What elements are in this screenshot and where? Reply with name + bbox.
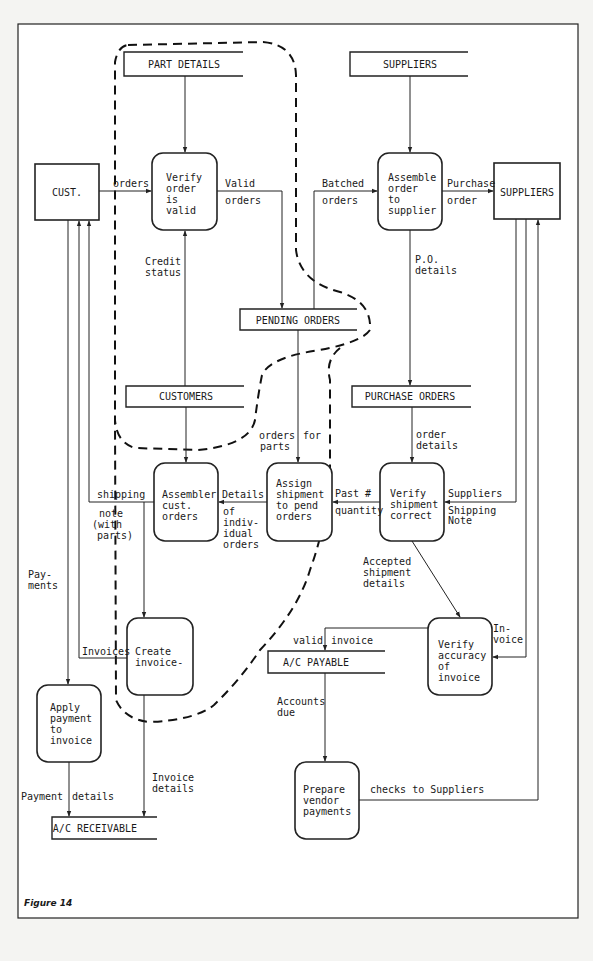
svg-text:Create: Create bbox=[135, 646, 171, 657]
svg-text:correct: correct bbox=[390, 510, 432, 521]
svg-text:SUPPLIERS: SUPPLIERS bbox=[383, 59, 437, 70]
svg-text:status: status bbox=[145, 267, 181, 278]
svg-text:invoice: invoice bbox=[50, 735, 92, 746]
figure-caption: Figure 14 bbox=[24, 898, 72, 908]
svg-text:of: of bbox=[223, 506, 235, 517]
svg-text:of: of bbox=[438, 661, 450, 672]
data-flow-diagram: CUST. SUPPLIERS PART DETAILS SUPPLIERS P… bbox=[0, 0, 593, 961]
svg-text:Valid: Valid bbox=[225, 178, 255, 189]
svg-text:PART DETAILS: PART DETAILS bbox=[148, 59, 220, 70]
svg-text:Accounts: Accounts bbox=[277, 696, 325, 707]
svg-text:Suppliers: Suppliers bbox=[448, 488, 502, 499]
svg-text:to: to bbox=[388, 194, 400, 205]
svg-text:Invoices: Invoices bbox=[82, 646, 130, 657]
svg-text:details: details bbox=[363, 578, 405, 589]
svg-text:orders: orders bbox=[259, 430, 295, 441]
svg-text:parts): parts) bbox=[97, 530, 133, 541]
svg-text:Past #: Past # bbox=[335, 488, 371, 499]
svg-text:Assemble: Assemble bbox=[388, 172, 436, 183]
svg-text:order: order bbox=[447, 195, 477, 206]
process-assign-shipment[interactable]: Assign shipment to pend orders bbox=[267, 463, 332, 541]
svg-text:payment: payment bbox=[50, 713, 92, 724]
svg-text:Details: Details bbox=[222, 489, 264, 500]
svg-text:orders: orders bbox=[225, 195, 261, 206]
svg-text:Assembler: Assembler bbox=[162, 489, 216, 500]
svg-text:orders: orders bbox=[162, 511, 198, 522]
process-verify-order[interactable]: Verify order is valid bbox=[152, 153, 217, 230]
svg-text:indiv-: indiv- bbox=[223, 517, 259, 528]
svg-text:Apply: Apply bbox=[50, 702, 80, 713]
svg-text:order: order bbox=[416, 429, 446, 440]
svg-text:In-: In- bbox=[493, 623, 511, 634]
svg-text:invoice-: invoice- bbox=[135, 657, 183, 668]
svg-text:order: order bbox=[388, 183, 418, 194]
svg-text:orders: orders bbox=[322, 195, 358, 206]
svg-text:shipping: shipping bbox=[97, 489, 145, 500]
svg-text:for: for bbox=[303, 430, 321, 441]
svg-text:Batched: Batched bbox=[322, 178, 364, 189]
svg-text:invoice: invoice bbox=[331, 635, 373, 646]
svg-text:accuracy: accuracy bbox=[438, 650, 486, 661]
svg-text:Prepare: Prepare bbox=[303, 784, 345, 795]
svg-text:Verify: Verify bbox=[438, 639, 474, 650]
svg-text:SUPPLIERS: SUPPLIERS bbox=[500, 187, 554, 198]
svg-text:shipment: shipment bbox=[363, 567, 411, 578]
svg-text:Assign: Assign bbox=[276, 478, 312, 489]
svg-text:CUST.: CUST. bbox=[52, 187, 82, 198]
svg-text:is: is bbox=[166, 194, 178, 205]
svg-text:A/C RECEIVABLE: A/C RECEIVABLE bbox=[53, 823, 137, 834]
svg-text:valid: valid bbox=[293, 635, 323, 646]
svg-text:Pay-: Pay- bbox=[28, 569, 52, 580]
svg-text:valid: valid bbox=[166, 205, 196, 216]
svg-text:voice: voice bbox=[493, 634, 523, 645]
svg-text:Verify: Verify bbox=[390, 488, 426, 499]
svg-text:details: details bbox=[415, 265, 457, 276]
svg-text:shipment: shipment bbox=[390, 499, 438, 510]
process-verify-shipment[interactable]: Verify shipment correct bbox=[380, 463, 444, 541]
svg-text:quantity: quantity bbox=[335, 505, 383, 516]
process-assembler-cust-orders[interactable]: Assembler cust. orders bbox=[154, 463, 218, 541]
svg-text:A/C PAYABLE: A/C PAYABLE bbox=[283, 657, 349, 668]
svg-text:P.O.: P.O. bbox=[415, 254, 439, 265]
svg-text:CUSTOMERS: CUSTOMERS bbox=[159, 391, 213, 402]
process-prepare-vendor-payments[interactable]: Prepare vendor payments bbox=[295, 762, 359, 839]
svg-text:shipment: shipment bbox=[276, 489, 324, 500]
svg-text:parts: parts bbox=[260, 441, 290, 452]
svg-text:supplier: supplier bbox=[388, 205, 436, 216]
svg-text:to: to bbox=[50, 724, 62, 735]
svg-text:Credit: Credit bbox=[145, 256, 181, 267]
svg-text:cust.: cust. bbox=[162, 500, 192, 511]
svg-text:payments: payments bbox=[303, 806, 351, 817]
svg-text:details: details bbox=[72, 791, 114, 802]
svg-text:Purchase: Purchase bbox=[447, 178, 495, 189]
svg-text:Verify: Verify bbox=[166, 172, 202, 183]
svg-text:to pend: to pend bbox=[276, 500, 318, 511]
svg-text:invoice: invoice bbox=[438, 672, 480, 683]
svg-text:checks to Suppliers: checks to Suppliers bbox=[370, 784, 484, 795]
svg-text:PENDING ORDERS: PENDING ORDERS bbox=[256, 315, 340, 326]
svg-text:order: order bbox=[166, 183, 196, 194]
svg-text:(with: (with bbox=[92, 519, 122, 530]
process-verify-accuracy[interactable]: Verify accuracy of invoice bbox=[428, 618, 492, 695]
svg-text:note: note bbox=[99, 508, 123, 519]
svg-text:Payment: Payment bbox=[21, 791, 63, 802]
svg-text:Note: Note bbox=[448, 515, 472, 526]
process-apply-payment[interactable]: Apply payment to invoice bbox=[37, 685, 101, 762]
svg-text:Invoice: Invoice bbox=[152, 772, 194, 783]
svg-text:Accepted: Accepted bbox=[363, 556, 411, 567]
label-orders: orders bbox=[113, 178, 149, 189]
svg-text:ments: ments bbox=[28, 580, 58, 591]
entity-customer[interactable]: CUST. bbox=[35, 164, 99, 220]
svg-text:details: details bbox=[152, 783, 194, 794]
process-assemble-order[interactable]: Assemble order to supplier bbox=[378, 153, 442, 230]
svg-text:orders: orders bbox=[276, 511, 312, 522]
svg-text:idual: idual bbox=[223, 528, 253, 539]
svg-text:orders: orders bbox=[223, 539, 259, 550]
entity-suppliers[interactable]: SUPPLIERS bbox=[494, 163, 560, 219]
svg-text:due: due bbox=[277, 707, 295, 718]
svg-text:PURCHASE ORDERS: PURCHASE ORDERS bbox=[365, 391, 455, 402]
svg-text:vendor: vendor bbox=[303, 795, 339, 806]
svg-text:details: details bbox=[416, 440, 458, 451]
process-create-invoice[interactable]: Create invoice- bbox=[127, 618, 193, 695]
